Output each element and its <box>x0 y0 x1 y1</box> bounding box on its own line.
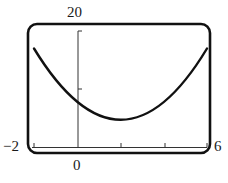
x-ticks <box>34 143 207 148</box>
y-max-label: 20 <box>67 5 82 20</box>
function-curve <box>34 49 207 120</box>
origin-label: 0 <box>73 158 81 173</box>
y-ticks <box>78 31 82 89</box>
x-max-label: 6 <box>214 139 222 154</box>
graph-window <box>0 0 228 183</box>
x-min-label: −2 <box>3 139 19 154</box>
screen-frame <box>28 24 210 153</box>
